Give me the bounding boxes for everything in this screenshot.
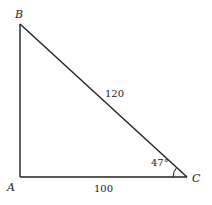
side-bc [20,24,187,177]
triangle-diagram: B A C 120 100 47° [0,0,212,205]
angle-c-arc [173,168,177,177]
vertex-a-label: A [6,181,15,194]
vertex-c-label: C [192,172,201,185]
side-bc-length: 120 [105,88,124,99]
angle-c-measure: 47° [151,157,169,168]
vertex-b-label: B [14,8,23,21]
side-ac-length: 100 [94,183,113,194]
